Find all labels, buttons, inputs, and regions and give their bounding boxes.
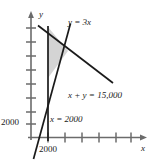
x-axis-tick-label-2000: 2000 bbox=[39, 145, 57, 154]
graph-figure: y x 2000 2000 y = 3x x + y = 15,000 x = … bbox=[0, 0, 155, 164]
label-line-y-equals-3x: y = 3x bbox=[68, 18, 91, 27]
x-axis-arrowhead bbox=[140, 135, 147, 141]
y-axis-arrowhead bbox=[28, 11, 34, 18]
x-axis-label: x bbox=[141, 144, 145, 153]
label-line-x-plus-y: x + y = 15,000 bbox=[68, 91, 122, 100]
label-line-x-equals-2000: x = 2000 bbox=[50, 115, 83, 124]
y-axis-label: y bbox=[39, 10, 43, 19]
y-axis-tick-label-2000: 2000 bbox=[1, 118, 19, 127]
